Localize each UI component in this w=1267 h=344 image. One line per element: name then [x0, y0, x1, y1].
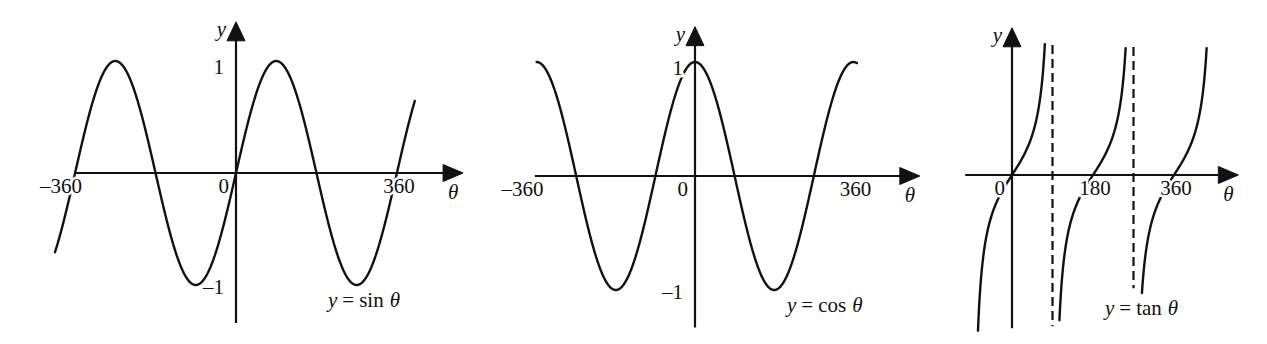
x-tick-label: 0 — [995, 176, 1006, 200]
equation-operator: = — [342, 288, 354, 312]
trig-graphs-figure: –36003601–1yθy=sinθ –36003601–1yθy=cosθ … — [0, 0, 1267, 344]
equation-operator: = — [1119, 296, 1131, 320]
x-axis-label: θ — [905, 183, 915, 207]
y-tick-label: –1 — [661, 280, 683, 304]
x-axis-label: θ — [1223, 182, 1233, 206]
y-axis-label: y — [674, 22, 686, 46]
equation-variable: θ — [852, 293, 862, 317]
equation-lhs: y — [785, 293, 797, 317]
equation-lhs: y — [1103, 296, 1115, 320]
x-tick-label: 360 — [1160, 176, 1192, 200]
x-tick-label: –360 — [501, 177, 544, 201]
x-tick-label: 360 — [840, 177, 872, 201]
x-tick-label: 360 — [383, 174, 415, 198]
y-tick-label: –1 — [202, 275, 224, 299]
equation-label: y=sinθ — [326, 288, 400, 312]
equation-function: sin — [359, 288, 384, 312]
equation-label: y=tanθ — [1103, 296, 1178, 320]
equation-variable: θ — [390, 288, 400, 312]
equation-function: tan — [1136, 296, 1162, 320]
x-tick-label: 180 — [1079, 176, 1111, 200]
x-tick-label: 0 — [678, 177, 689, 201]
x-tick-label: 0 — [219, 174, 230, 198]
x-tick-label: –360 — [39, 174, 82, 198]
equation-operator: = — [801, 293, 813, 317]
y-axis-label: y — [991, 23, 1003, 47]
x-axis-label: θ — [448, 180, 458, 204]
y-tick-label: 1 — [673, 56, 684, 80]
equation-variable: θ — [1168, 296, 1178, 320]
y-tick-label: 1 — [214, 55, 225, 79]
y-axis-label: y — [215, 17, 227, 41]
equation-function: cos — [818, 293, 846, 317]
equation-lhs: y — [326, 288, 338, 312]
